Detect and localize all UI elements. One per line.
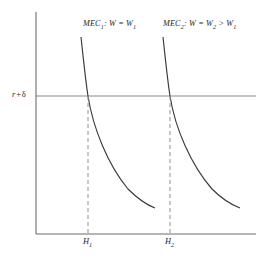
x-axis-tick-label-h2: H2: [165, 238, 174, 248]
mec2-label-rest: : W = W: [184, 19, 213, 28]
mec1-curve: [81, 37, 155, 208]
mec2-label-rest2-sub: 1: [233, 24, 236, 30]
mec1-label-rest-sub: 1: [133, 24, 136, 30]
mec1-label-base: MEC: [83, 19, 101, 28]
h1-sub: 1: [89, 241, 92, 248]
y-axis-tick-label: r+δ: [12, 90, 26, 99]
mec2-curve-label: MEC2: W = W2 > W1: [163, 20, 236, 30]
x-axis-tick-label-h1: H1: [83, 238, 92, 248]
mec1-label-rest: : W = W: [104, 19, 133, 28]
y-tick-greek-delta: δ: [22, 89, 26, 99]
mec1-curve-label: MEC1: W = W1: [83, 20, 136, 30]
economics-diagram: MEC1: W = W1 MEC2: W = W2 > W1 r+δ H1 H2: [0, 0, 269, 262]
mec2-label-base: MEC: [163, 19, 181, 28]
mec2-label-rest2: > W: [216, 19, 233, 28]
h2-sub: 2: [171, 241, 174, 248]
diagram-canvas: [0, 0, 269, 262]
mec2-curve: [163, 37, 240, 208]
